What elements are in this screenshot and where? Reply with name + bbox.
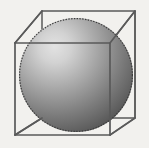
geometry-figure: Sphere inscribed in a cube A shaded grey…: [0, 0, 149, 148]
sphere-in-cube-illustration: [0, 0, 149, 148]
